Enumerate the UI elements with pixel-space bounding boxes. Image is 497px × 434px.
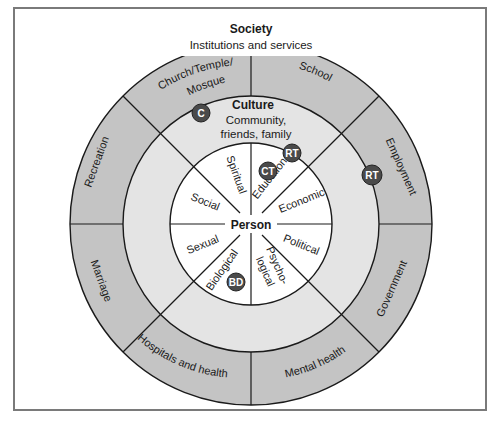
marker-bd: BD bbox=[227, 273, 245, 291]
svg-text:RT: RT bbox=[365, 170, 378, 181]
svg-text:CT: CT bbox=[261, 166, 274, 177]
marker-rt-employment: RT bbox=[362, 165, 382, 185]
svg-text:BD: BD bbox=[229, 277, 243, 288]
svg-text:RT: RT bbox=[285, 148, 298, 159]
culture-subtitle-line1: Community, bbox=[226, 114, 287, 126]
society-title: Society bbox=[230, 22, 273, 36]
person-title: Person bbox=[231, 218, 272, 232]
society-subtitle: Institutions and services bbox=[190, 39, 313, 51]
marker-rt-educational: RT bbox=[283, 144, 301, 162]
marker-ct: CT bbox=[259, 162, 277, 180]
wheel-diagram: Society Institutions and services School… bbox=[0, 0, 497, 434]
svg-text:C: C bbox=[197, 108, 204, 119]
culture-subtitle-line2: friends, family bbox=[221, 128, 292, 140]
marker-c: C bbox=[192, 104, 210, 122]
culture-title: Culture bbox=[232, 98, 274, 112]
